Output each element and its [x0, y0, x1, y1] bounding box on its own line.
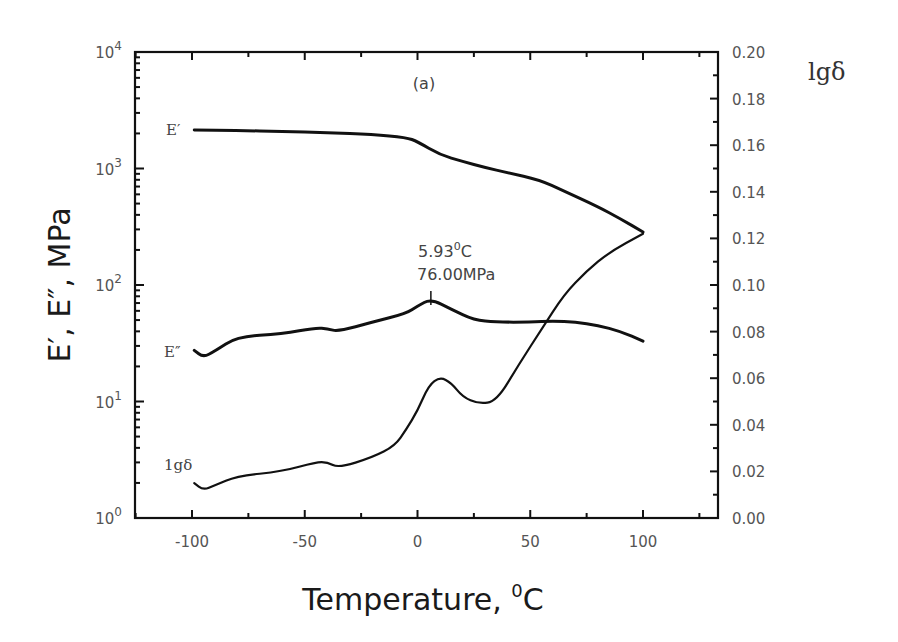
x-axis-title: Temperature, 0C: [301, 580, 544, 617]
y-tick-label-right: 0.16: [732, 137, 765, 155]
y-tick-label-right: 0.02: [732, 463, 765, 481]
y-axis-title-right: lgδ: [808, 58, 846, 86]
y-tick-label-right: 0.08: [732, 324, 765, 342]
y-tick-label-left: 101: [95, 389, 122, 412]
plot-frame: [135, 52, 718, 518]
svg-text:5.930C: 5.930C: [418, 240, 472, 261]
x-tick-label: 100: [629, 533, 658, 551]
y-tick-label-right: 0.10: [732, 277, 765, 295]
e-loss-curve: [194, 301, 643, 356]
y-tick-label-left: 102: [95, 272, 122, 295]
y-axis-title-left: E′, E″, MPa: [42, 207, 77, 362]
y-tick-label-right: 0.06: [732, 370, 765, 388]
peak-annotation: 5.930C 76.00MPa: [417, 240, 495, 284]
series-label-e-storage: E′: [166, 121, 181, 139]
y-tick-label-left: 103: [95, 156, 122, 179]
y-tick-label-right: 0.18: [732, 91, 765, 109]
plot-border: [135, 52, 718, 518]
series-label-lg-delta: 1gδ: [164, 456, 192, 474]
svg-text:76.00MPa: 76.00MPa: [417, 265, 495, 284]
series-label-e-loss: E″: [164, 343, 181, 361]
data-curves: [194, 130, 643, 489]
y-tick-label-right: 0.20: [732, 44, 765, 62]
dma-chart: -100-500501001001011021031040.000.020.04…: [0, 0, 898, 642]
x-tick-label: 0: [413, 533, 423, 551]
y-tick-label-right: 0.00: [732, 510, 765, 528]
x-tick-label: -50: [293, 533, 318, 551]
y-tick-label-left: 104: [95, 39, 122, 62]
y-tick-label-right: 0.12: [732, 230, 765, 248]
x-tick-label: 50: [521, 533, 540, 551]
panel-label: (a): [413, 74, 435, 93]
x-tick-label: -100: [175, 533, 209, 551]
y-tick-label-left: 100: [95, 505, 122, 528]
y-tick-label-right: 0.04: [732, 417, 765, 435]
y-tick-label-right: 0.14: [732, 184, 765, 202]
e-storage-curve: [194, 130, 643, 232]
